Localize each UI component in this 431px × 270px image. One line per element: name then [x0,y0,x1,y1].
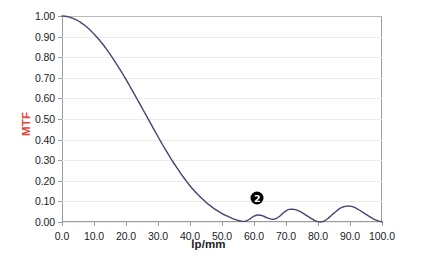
x-axis-title: lp/mm [0,238,431,250]
x-axis-tick [254,222,255,226]
mtf-curve-svg [62,16,382,222]
y-axis-tick-label: 0.80 [35,51,55,63]
x-axis-tick [222,222,223,226]
mtf-chart: MTF 0.000.100.200.300.400.500.600.700.80… [0,0,431,270]
x-axis-tick [286,222,287,226]
x-axis-title-text: lp/mm [191,238,225,250]
y-axis-tick-label: 0.30 [35,154,55,166]
y-axis-tick-label: 0.90 [35,31,55,43]
y-axis-tick-label: 0.00 [35,216,55,228]
y-axis-tick-label: 1.00 [35,10,55,22]
x-axis-tick [62,222,63,226]
y-axis-title: MTF [20,112,32,136]
x-axis-tick [94,222,95,226]
y-axis-tick-label: 0.70 [35,72,55,84]
y-axis-tick-label: 0.20 [35,175,55,187]
plot-area: 2 [62,16,382,222]
annotation-badge-2: 2 [251,192,264,205]
x-axis-tick [318,222,319,226]
x-axis-tick [190,222,191,226]
y-axis-tick-label: 0.10 [35,195,55,207]
x-axis-tick [382,222,383,226]
mtf-curve-path [62,16,382,222]
y-axis-tick-label: 0.50 [35,113,55,125]
y-axis-tick-label: 0.40 [35,134,55,146]
x-axis-tick [158,222,159,226]
y-axis-tick-label: 0.60 [35,92,55,104]
x-axis-tick [350,222,351,226]
x-axis-tick [126,222,127,226]
